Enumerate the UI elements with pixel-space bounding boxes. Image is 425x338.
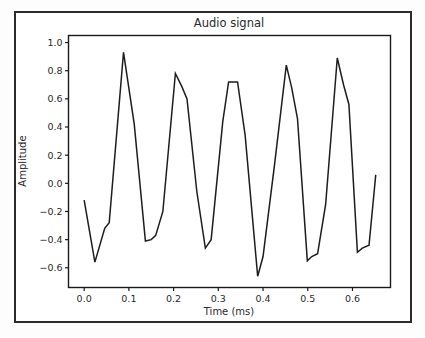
y-tick-label: 0.4 (47, 121, 62, 132)
y-axis-ticks: −0.6−0.4−0.20.00.20.40.60.81.0 (39, 37, 68, 273)
y-tick-label: −0.2 (39, 206, 62, 217)
x-tick-label: 0.4 (255, 293, 270, 304)
x-tick-label: 0.1 (121, 293, 136, 304)
y-tick-label: −0.4 (39, 234, 62, 245)
plot-frame (69, 36, 391, 288)
y-axis-label: Amplitude (17, 135, 28, 186)
audio-waveform-line (84, 52, 376, 276)
x-axis-label: Time (ms) (203, 306, 255, 317)
y-tick-label: −0.6 (39, 262, 62, 273)
x-tick-label: 0.0 (77, 293, 92, 304)
x-tick-label: 0.2 (166, 293, 181, 304)
y-tick-label: 0.6 (47, 93, 62, 104)
page-title: Audio signal (194, 16, 264, 30)
y-tick-label: 1.0 (47, 37, 62, 48)
x-tick-label: 0.6 (345, 293, 360, 304)
x-tick-label: 0.5 (300, 293, 315, 304)
y-tick-label: 0.8 (47, 65, 62, 76)
x-axis-ticks: 0.00.10.20.30.40.50.6 (77, 288, 360, 305)
chart-canvas: Audio signal Amplitude Time (ms) −0.6−0.… (0, 0, 425, 338)
y-tick-label: 0.2 (47, 150, 62, 161)
y-tick-label: 0.0 (47, 178, 62, 189)
x-tick-label: 0.3 (211, 293, 226, 304)
figure-container: Audio signal Amplitude Time (ms) −0.6−0.… (0, 0, 425, 338)
